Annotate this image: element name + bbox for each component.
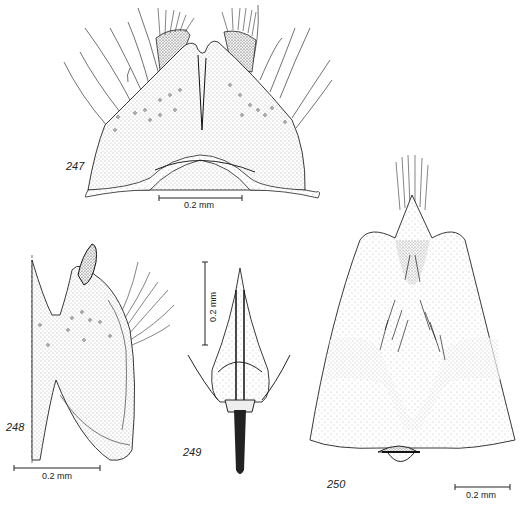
plate-drawings (0, 0, 526, 509)
figure-number-250: 250 (327, 478, 345, 490)
figure-247-drawing (64, 5, 332, 198)
scale-label-247: 0.2 mm (184, 200, 214, 210)
scale-label-248: 0.2 mm (42, 471, 72, 481)
figure-248-drawing (32, 244, 174, 465)
figure-number-248: 248 (6, 421, 24, 433)
figure-250-drawing (310, 155, 515, 462)
scale-label-250: 0.2 mm (466, 490, 496, 500)
figure-249-drawing (188, 268, 290, 474)
figure-number-247: 247 (66, 160, 84, 172)
scale-label-249: 0.2 mm (208, 292, 218, 322)
figure-number-249: 249 (183, 446, 201, 458)
